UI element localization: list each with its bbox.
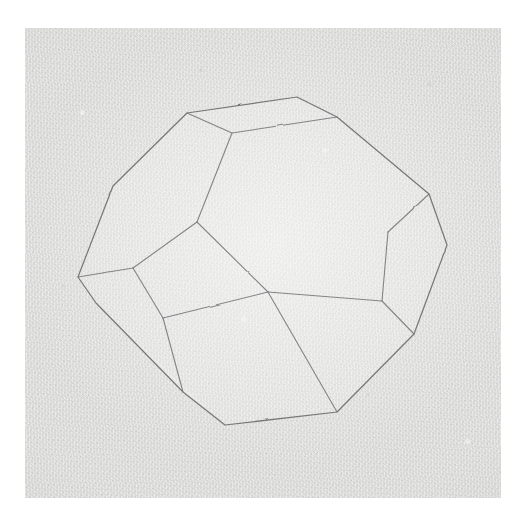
paper-sheet [25, 28, 501, 498]
paper-tone-overlay [25, 28, 501, 498]
image-canvas [0, 0, 527, 515]
paper-grain-texture [25, 28, 501, 498]
